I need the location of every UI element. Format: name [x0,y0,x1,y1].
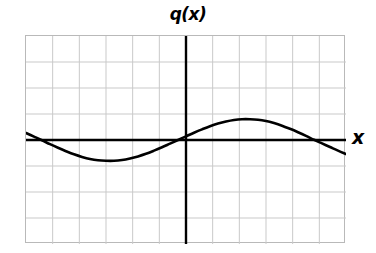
plot-area [25,35,345,243]
chart-figure: q(x) x [0,0,376,253]
chart-title: q(x) [0,4,376,24]
plot-svg [26,36,346,244]
x-axis-label: x [352,126,364,148]
